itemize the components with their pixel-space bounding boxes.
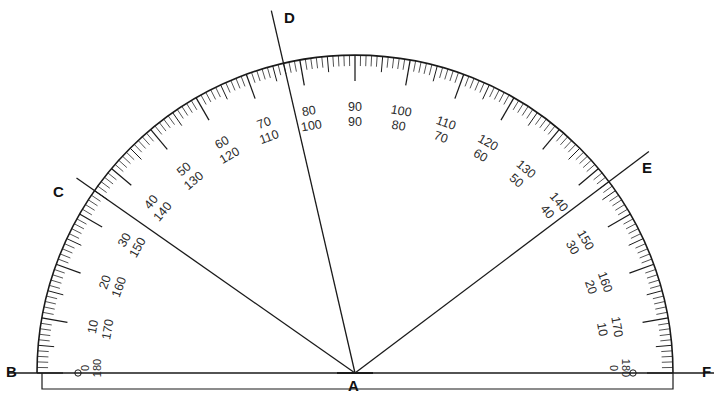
point-label-d: D: [284, 10, 295, 25]
svg-text:180: 180: [91, 359, 103, 377]
svg-text:100: 100: [300, 117, 323, 134]
scale-numbers: 1017020160301504014050130601207011080100…: [84, 100, 625, 341]
point-label-c: C: [53, 184, 64, 199]
point-label-b: B: [6, 364, 17, 379]
svg-text:10: 10: [594, 321, 610, 337]
scale-end-numbers: 01801800: [75, 359, 636, 377]
point-label-a: A: [348, 378, 359, 393]
svg-text:0: 0: [79, 365, 91, 371]
svg-text:170: 170: [99, 318, 116, 341]
svg-text:0: 0: [608, 365, 620, 371]
svg-text:90: 90: [348, 115, 362, 129]
rays-group: [76, 11, 648, 373]
svg-text:80: 80: [391, 118, 407, 134]
svg-text:10: 10: [85, 319, 101, 335]
point-label-e: E: [642, 160, 652, 175]
svg-text:80: 80: [301, 103, 317, 119]
protractor-figure: 1017020160301504014050130601207011080100…: [0, 0, 722, 397]
point-label-f: F: [702, 364, 711, 379]
protractor-canvas: 1017020160301504014050130601207011080100…: [0, 0, 722, 397]
svg-text:90: 90: [348, 100, 362, 114]
